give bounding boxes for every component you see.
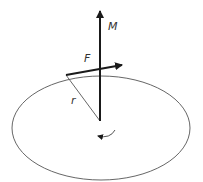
torque-diagram: M F r bbox=[0, 0, 203, 182]
radius-label: r bbox=[71, 94, 77, 107]
force-label: F bbox=[84, 52, 91, 65]
moment-label: M bbox=[108, 20, 118, 33]
rotation-arrow-icon bbox=[98, 130, 115, 137]
force-vector-arrow bbox=[66, 65, 122, 75]
